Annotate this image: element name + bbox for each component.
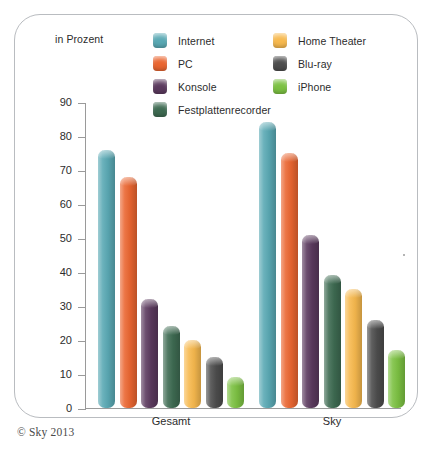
legend-swatch-home-theater bbox=[273, 33, 287, 48]
bar bbox=[345, 289, 362, 408]
legend-item: Internet bbox=[153, 29, 271, 52]
legend-item-label: Home Theater bbox=[298, 35, 366, 47]
chart-card: in Prozent InternetPCKonsoleFestplattenr… bbox=[14, 14, 418, 418]
bar bbox=[388, 350, 405, 408]
bar bbox=[227, 377, 244, 408]
legend-item-label: PC bbox=[178, 58, 193, 70]
bar bbox=[163, 326, 180, 408]
artifact-dot bbox=[403, 254, 405, 256]
bar bbox=[281, 153, 298, 408]
bar bbox=[120, 177, 137, 408]
bar bbox=[367, 320, 384, 408]
legend-item: Home Theater bbox=[273, 29, 366, 52]
y-axis-tick-mark bbox=[78, 409, 86, 410]
bar bbox=[184, 340, 201, 408]
y-axis-tick: 0 bbox=[78, 409, 86, 410]
unit-label: in Prozent bbox=[55, 33, 103, 45]
bar bbox=[98, 150, 115, 408]
bar bbox=[324, 275, 341, 408]
plot-area: 0102030405060708090 GesamtSky bbox=[41, 89, 401, 389]
x-axis-group-label: Sky bbox=[323, 415, 341, 427]
bar bbox=[302, 235, 319, 408]
legend-item-label: Internet bbox=[178, 35, 214, 47]
legend-swatch-internet bbox=[153, 33, 167, 48]
x-axis-group-label: Gesamt bbox=[152, 415, 191, 427]
legend-item: PC bbox=[153, 52, 271, 75]
legend-item: Blu-ray bbox=[273, 52, 366, 75]
legend-swatch-bluray bbox=[273, 56, 287, 71]
legend-swatch-pc bbox=[153, 56, 167, 71]
legend-item-label: Blu-ray bbox=[298, 58, 332, 70]
bar bbox=[259, 122, 276, 408]
legend-column-right: Home TheaterBlu-rayiPhone bbox=[273, 29, 366, 98]
copyright-notice: © Sky 2013 bbox=[17, 426, 74, 438]
bar bbox=[206, 357, 223, 408]
bar bbox=[141, 299, 158, 408]
bars-layer bbox=[41, 89, 401, 409]
